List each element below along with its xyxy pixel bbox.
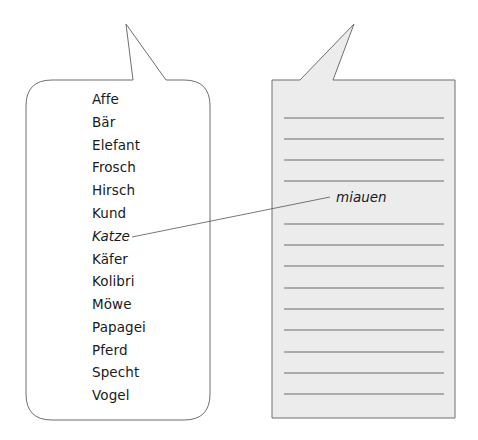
word-item-highlighted: Katze bbox=[92, 228, 130, 244]
word-item: Papagei bbox=[92, 319, 146, 335]
word-item: Specht bbox=[92, 364, 139, 380]
word-item: Hirsch bbox=[92, 182, 135, 198]
word-item: Käfer bbox=[92, 251, 128, 267]
right-speech-bubble bbox=[272, 24, 455, 418]
word-item: Möwe bbox=[92, 296, 132, 312]
word-item: Frosch bbox=[92, 159, 136, 175]
worksheet-graphics bbox=[0, 0, 478, 440]
word-item: Pferd bbox=[92, 342, 128, 358]
word-item: Kund bbox=[92, 205, 126, 221]
word-item: Affe bbox=[92, 91, 119, 107]
left-speech-bubble bbox=[26, 24, 210, 420]
answer-text: miauen bbox=[336, 189, 387, 205]
word-item: Kolibri bbox=[92, 273, 135, 289]
word-item: Vogel bbox=[92, 387, 130, 403]
word-item: Bär bbox=[92, 114, 115, 130]
word-item: Elefant bbox=[92, 137, 140, 153]
